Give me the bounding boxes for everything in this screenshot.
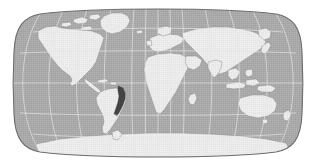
world-map-figure [0, 0, 316, 166]
landmass-iceland [136, 30, 143, 34]
landmass-caribbean-2 [110, 82, 117, 85]
landmass-tasmania [262, 119, 268, 124]
world-map-canvas [0, 0, 316, 166]
map-body [0, 0, 316, 166]
landmass-british-isles [146, 40, 152, 46]
